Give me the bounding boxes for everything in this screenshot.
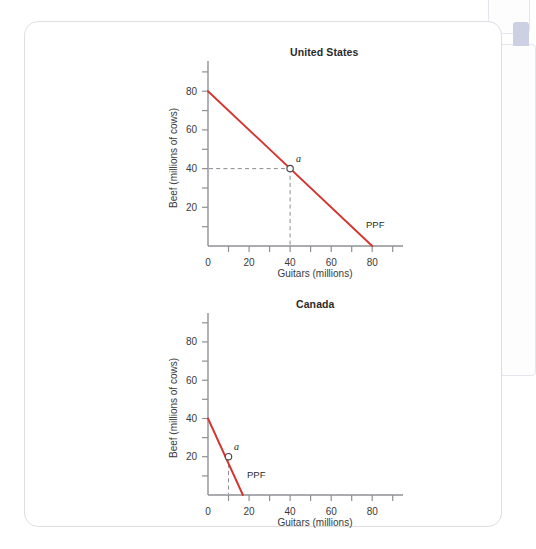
chart-united-states: United States 20 40 60 80 xyxy=(25,28,503,280)
y-tick-label-us-20: 20 xyxy=(186,202,198,213)
y-tick-label-canada-60: 60 xyxy=(186,375,198,386)
x-tick-label-canada-60: 60 xyxy=(326,506,338,517)
y-axis-title-us: Beef (millions of cows) xyxy=(168,108,179,208)
page-margin-tab xyxy=(513,22,529,46)
x-tick-label-canada-0: 0 xyxy=(205,506,211,517)
series-label-ppf-canada: PPF xyxy=(247,469,266,480)
chart-title-united-states: United States xyxy=(290,46,358,58)
point-label-a-canada: a xyxy=(234,441,239,452)
point-marker-a-us xyxy=(287,165,293,171)
x-tick-label-canada-20: 20 xyxy=(244,506,256,517)
y-tick-label-us-80: 80 xyxy=(186,86,198,97)
x-tick-label-us-80: 80 xyxy=(367,257,379,268)
x-tick-label-us-0: 0 xyxy=(205,257,211,268)
y-ticks-us xyxy=(202,72,208,227)
chart-canada-svg: Canada 20 40 60 80 xyxy=(25,280,503,528)
x-axis-title-us: Guitars (millions) xyxy=(277,268,352,279)
x-tick-label-us-60: 60 xyxy=(326,257,338,268)
y-ticks-canada xyxy=(202,323,208,476)
x-tick-label-us-20: 20 xyxy=(244,257,256,268)
chart-united-states-svg: United States 20 40 60 80 xyxy=(25,28,503,280)
chart-title-canada: Canada xyxy=(296,298,335,310)
y-tick-label-us-40: 40 xyxy=(186,163,198,174)
y-tick-label-us-60: 60 xyxy=(186,124,198,135)
x-ticks-canada xyxy=(229,495,393,501)
series-label-ppf-us: PPF xyxy=(366,219,385,230)
figure-card: United States 20 40 60 80 xyxy=(24,21,502,527)
x-tick-label-canada-80: 80 xyxy=(367,506,379,517)
chart-canada: Canada 20 40 60 80 xyxy=(25,280,503,528)
x-ticks-us xyxy=(229,246,393,252)
point-label-a-us: a xyxy=(296,153,301,164)
x-tick-label-us-40: 40 xyxy=(285,257,297,268)
x-axis-title-canada: Guitars (millions) xyxy=(277,517,352,528)
y-tick-label-canada-20: 20 xyxy=(186,451,198,462)
point-marker-a-canada xyxy=(225,454,231,460)
y-tick-label-canada-80: 80 xyxy=(186,336,198,347)
y-tick-label-canada-40: 40 xyxy=(186,413,198,424)
y-axis-title-canada: Beef (millions of cows) xyxy=(168,358,179,458)
x-tick-label-canada-40: 40 xyxy=(285,506,297,517)
